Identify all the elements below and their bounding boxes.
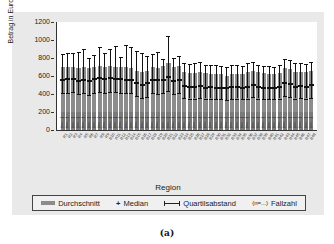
median-marker bbox=[304, 86, 309, 88]
quartile-cap bbox=[77, 52, 81, 53]
median-marker bbox=[161, 79, 166, 81]
quartile-cap bbox=[156, 94, 160, 95]
quartile-cap bbox=[235, 99, 239, 100]
quartile-range-line bbox=[131, 47, 132, 93]
quartile-range-line bbox=[73, 53, 74, 92]
quartile-range-line bbox=[221, 66, 222, 99]
quartile-cap bbox=[114, 46, 118, 47]
quartile-range-line bbox=[78, 52, 79, 94]
quartile-range-line bbox=[200, 62, 201, 98]
case-count-label: (n=…) bbox=[197, 117, 202, 128]
quartile-cap bbox=[299, 98, 303, 99]
legend-median: +Median bbox=[116, 199, 148, 208]
quartile-cap bbox=[114, 92, 118, 93]
quartile-cap bbox=[151, 54, 155, 55]
case-count-label: (n=…) bbox=[160, 117, 165, 128]
quartile-cap bbox=[135, 96, 139, 97]
case-count-label: (n=…) bbox=[86, 117, 91, 128]
quartile-cap bbox=[193, 99, 197, 100]
quartile-cap bbox=[182, 98, 186, 99]
quartile-cap bbox=[161, 59, 165, 60]
quartile-range-line bbox=[104, 53, 105, 93]
median-marker bbox=[192, 86, 197, 88]
quartile-range-line bbox=[231, 65, 232, 99]
quartile-cap bbox=[140, 53, 144, 54]
quartile-cap bbox=[61, 54, 65, 55]
quartile-range-line bbox=[62, 54, 63, 93]
y-tick-label: 1000 bbox=[34, 36, 50, 43]
quartile-range-line bbox=[157, 52, 158, 94]
quartile-cap bbox=[145, 97, 149, 98]
quartile-cap bbox=[219, 66, 223, 67]
quartile-cap bbox=[283, 96, 287, 97]
case-count-label: (n=…) bbox=[176, 117, 181, 128]
case-count-label: (n=…) bbox=[303, 117, 308, 128]
quartile-cap bbox=[209, 99, 213, 100]
y-tick-label: 1200 bbox=[34, 18, 50, 25]
median-marker bbox=[65, 78, 70, 80]
quartile-cap bbox=[188, 64, 192, 65]
quartile-cap bbox=[66, 93, 70, 94]
case-count-label: (n=…) bbox=[287, 117, 292, 128]
median-marker bbox=[309, 84, 314, 86]
quartile-range-line bbox=[269, 66, 270, 99]
quartile-range-line bbox=[242, 66, 243, 99]
quartile-range-line bbox=[110, 49, 111, 92]
quartile-cap bbox=[129, 93, 133, 94]
quartile-cap bbox=[278, 99, 282, 100]
case-count-label: (n=…) bbox=[133, 117, 138, 128]
median-marker bbox=[124, 79, 129, 81]
quartile-cap bbox=[151, 93, 155, 94]
quartile-range-line bbox=[189, 64, 190, 98]
quartile-range-line bbox=[284, 59, 285, 96]
quartile-cap bbox=[241, 66, 245, 67]
median-marker bbox=[76, 80, 81, 82]
case-count-label: (n=…) bbox=[250, 117, 255, 128]
quartile-cap bbox=[214, 99, 218, 100]
quartile-range-line bbox=[279, 65, 280, 98]
quartile-cap bbox=[204, 99, 208, 100]
quartile-cap bbox=[241, 99, 245, 100]
median-marker bbox=[118, 78, 123, 80]
quartile-range-line bbox=[126, 45, 127, 94]
quartile-range-line bbox=[83, 49, 84, 93]
quartile-cap bbox=[251, 62, 255, 63]
quartile-cap bbox=[209, 65, 213, 66]
plus-icon: + bbox=[116, 199, 120, 208]
quartile-range-line bbox=[184, 63, 185, 98]
median-marker bbox=[293, 86, 298, 88]
quartile-cap bbox=[278, 65, 282, 66]
y-tick-label: 800 bbox=[38, 54, 50, 61]
quartile-range-line bbox=[290, 60, 291, 97]
quartile-range-line bbox=[216, 65, 217, 99]
quartile-cap bbox=[256, 99, 260, 100]
case-count-label: (n=…) bbox=[297, 117, 302, 128]
quartile-cap bbox=[225, 100, 229, 101]
case-count-label: (n=…) bbox=[213, 117, 218, 128]
legend-n: (n=...)Fallzahl bbox=[252, 199, 297, 208]
quartile-range-line bbox=[163, 59, 164, 93]
y-tick-label: 400 bbox=[38, 90, 50, 97]
case-count-label: (n=…) bbox=[308, 117, 313, 128]
quartile-range-line bbox=[99, 47, 100, 92]
median-marker bbox=[187, 86, 192, 88]
quartile-cap bbox=[66, 53, 70, 54]
case-count-label: (n=…) bbox=[260, 117, 265, 128]
median-marker bbox=[145, 82, 150, 84]
median-marker bbox=[129, 79, 134, 81]
y-tick-mark bbox=[51, 58, 54, 59]
case-count-label: (n=…) bbox=[207, 117, 212, 128]
quartile-cap bbox=[299, 63, 303, 64]
quartile-range-line bbox=[210, 65, 211, 98]
quartile-cap bbox=[204, 65, 208, 66]
median-marker bbox=[208, 86, 213, 88]
quartile-cap bbox=[309, 98, 313, 99]
median-marker bbox=[261, 87, 266, 89]
quartile-cap bbox=[77, 94, 81, 95]
quartile-range-line bbox=[120, 57, 121, 93]
figure-caption: (a) bbox=[0, 228, 334, 238]
quartile-range-line bbox=[258, 65, 259, 98]
quartile-cap bbox=[135, 51, 139, 52]
quartile-cap bbox=[82, 93, 86, 94]
quartile-cap bbox=[198, 62, 202, 63]
